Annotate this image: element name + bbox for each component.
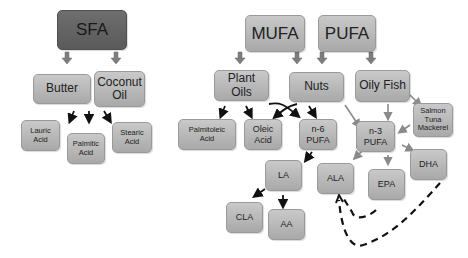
node-oleic-acid: OleicAcid bbox=[244, 119, 282, 150]
node-epa: EPA bbox=[368, 169, 405, 200]
node-aa: AA bbox=[268, 209, 305, 240]
node-salmon-tuna-mackerel: SalmonTunaMackerel bbox=[413, 103, 453, 137]
node-dha: DHA bbox=[410, 149, 447, 180]
node-ala: ALA bbox=[317, 163, 354, 194]
node-pufa: PUFA bbox=[318, 15, 376, 52]
node-cla: CLA bbox=[226, 202, 263, 233]
node-mufa: MUFA bbox=[245, 15, 305, 52]
node-oily-fish: Oily Fish bbox=[355, 70, 410, 102]
node-butter: Butter bbox=[33, 74, 91, 104]
node-stearic-acid: StearicAcid bbox=[112, 122, 152, 153]
node-plant-oils: PlantOils bbox=[214, 70, 269, 101]
node-nuts: Nuts bbox=[289, 72, 344, 102]
node-sfa: SFA bbox=[57, 10, 127, 50]
node-n6-pufa: n-6PUFA bbox=[299, 119, 337, 150]
node-la: LA bbox=[265, 160, 302, 191]
node-n3-pufa: n-3PUFA bbox=[356, 121, 395, 152]
block-arrows bbox=[62, 52, 376, 64]
node-lauric-acid: LauricAcid bbox=[21, 120, 60, 151]
node-palmitic-acid: PalmiticAcid bbox=[67, 133, 105, 164]
node-palmitoleic-acid: PalmitoleicAcid bbox=[178, 119, 236, 150]
node-coconut-oil: CoconutOil bbox=[94, 71, 145, 107]
